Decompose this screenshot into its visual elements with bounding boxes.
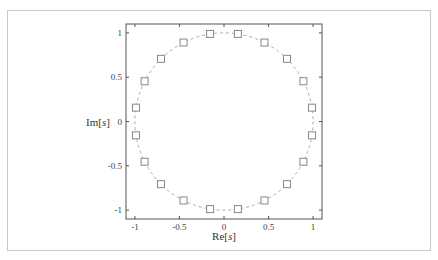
- y-tick-label: 0: [118, 117, 123, 127]
- square-marker: [300, 78, 307, 85]
- square-marker: [300, 158, 307, 165]
- square-marker: [158, 181, 165, 188]
- y-tick-label: -1: [115, 205, 123, 215]
- x-tick-label: -0.5: [172, 222, 187, 232]
- y-tick-label: -0.5: [108, 161, 123, 171]
- square-marker: [261, 39, 268, 46]
- square-marker: [283, 181, 290, 188]
- x-tick-label: 0.5: [263, 222, 275, 232]
- square-marker: [309, 104, 316, 111]
- square-marker: [283, 55, 290, 62]
- square-marker: [132, 104, 139, 111]
- y-tick-label: 1: [118, 28, 123, 38]
- square-marker: [309, 132, 316, 139]
- square-marker: [207, 30, 214, 37]
- x-tick-label: 1: [311, 222, 316, 232]
- square-marker: [180, 39, 187, 46]
- data-markers: [132, 30, 315, 212]
- square-marker: [141, 158, 148, 165]
- square-marker: [158, 55, 165, 62]
- square-marker: [234, 206, 241, 213]
- square-marker: [234, 30, 241, 37]
- square-marker: [141, 78, 148, 85]
- y-tick-label: 0.5: [111, 72, 123, 82]
- plot-frame: [126, 24, 322, 219]
- y-axis-label: Im[s]: [86, 116, 110, 128]
- x-axis-label: Re[s]: [212, 230, 236, 242]
- square-marker: [207, 206, 214, 213]
- x-tick-label: -1: [131, 222, 139, 232]
- square-marker: [132, 132, 139, 139]
- square-marker: [261, 197, 268, 204]
- scatter-plot: -1-0.500.51-1-0.500.51 Re[s] Im[s]: [0, 0, 438, 260]
- square-marker: [180, 197, 187, 204]
